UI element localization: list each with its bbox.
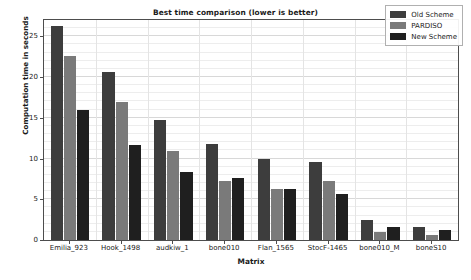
bar-pardiso-stocf-1465 xyxy=(323,181,335,240)
legend-label: New Scheme xyxy=(411,33,457,41)
bar-old-scheme-bone010 xyxy=(206,144,218,240)
group-separator xyxy=(406,20,407,240)
chart-figure: Best time comparison (lower is better) C… xyxy=(0,0,471,280)
legend-item: PARDISO xyxy=(390,20,457,31)
bar-old-scheme-hook_1498 xyxy=(102,72,114,240)
bar-old-scheme-flan_1565 xyxy=(258,159,270,240)
bar-pardiso-emilia_923 xyxy=(64,56,76,240)
y-tick-label: 10 xyxy=(12,155,38,163)
x-tick-label: Emilia_923 xyxy=(50,244,88,252)
y-tick-label: 15 xyxy=(12,114,38,122)
legend-item: New Scheme xyxy=(390,31,457,42)
x-tick-label: bone010 xyxy=(209,244,240,252)
legend-swatch-icon xyxy=(390,22,406,29)
plot-area xyxy=(43,19,459,241)
bar-old-scheme-stocf-1465 xyxy=(309,162,321,240)
legend-item: Old Scheme xyxy=(390,9,457,20)
x-axis-label: Matrix xyxy=(43,257,459,266)
bar-new-scheme-bone010 xyxy=(232,178,244,240)
bar-old-scheme-bone010_m xyxy=(361,220,373,240)
bar-new-scheme-emilia_923 xyxy=(77,110,89,240)
group-separator xyxy=(303,20,304,240)
bar-new-scheme-bones10 xyxy=(439,230,451,240)
group-separator xyxy=(148,20,149,240)
group-separator xyxy=(355,20,356,240)
y-tick-label: 0 xyxy=(12,236,38,244)
bar-old-scheme-emilia_923 xyxy=(51,26,63,240)
bar-pardiso-bone010_m xyxy=(374,232,386,240)
legend-swatch-icon xyxy=(390,11,406,18)
legend-label: PARDISO xyxy=(411,22,442,30)
bar-new-scheme-bone010_m xyxy=(387,227,399,240)
y-tick-label: 25 xyxy=(12,32,38,40)
bar-old-scheme-audkiw_1 xyxy=(154,120,166,240)
y-tick-label: 20 xyxy=(12,73,38,81)
x-tick-label: Hook_1498 xyxy=(101,244,140,252)
x-tick-label: boneS10 xyxy=(416,244,447,252)
bar-pardiso-bone010 xyxy=(219,181,231,240)
bar-pardiso-audkiw_1 xyxy=(167,151,179,240)
y-axis-ticks: 0510152025 xyxy=(11,19,43,241)
bar-new-scheme-hook_1498 xyxy=(129,145,141,240)
bar-old-scheme-bones10 xyxy=(413,227,425,240)
bar-pardiso-hook_1498 xyxy=(116,102,128,240)
chart-legend: Old SchemePARDISONew Scheme xyxy=(385,5,463,46)
group-separator xyxy=(251,20,252,240)
group-separator xyxy=(199,20,200,240)
x-tick-label: audkiw_1 xyxy=(156,244,189,252)
group-separator xyxy=(96,20,97,240)
y-tick-label: 5 xyxy=(12,195,38,203)
x-tick-label: StocF-1465 xyxy=(308,244,348,252)
legend-label: Old Scheme xyxy=(411,11,453,19)
bar-new-scheme-stocf-1465 xyxy=(336,194,348,240)
x-tick-label: Flan_1565 xyxy=(258,244,294,252)
x-tick-label: bone010_M xyxy=(359,244,399,252)
bar-pardiso-flan_1565 xyxy=(271,189,283,240)
legend-swatch-icon xyxy=(390,33,406,40)
bar-pardiso-bones10 xyxy=(426,235,438,240)
bar-new-scheme-flan_1565 xyxy=(284,189,296,240)
bar-new-scheme-audkiw_1 xyxy=(180,172,192,240)
